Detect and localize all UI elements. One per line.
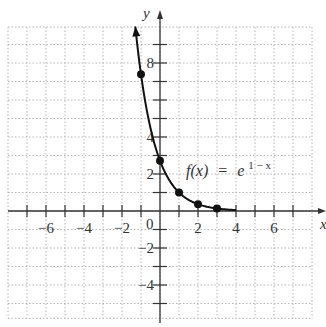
base-e: e xyxy=(237,162,244,179)
data-point xyxy=(156,157,164,165)
y-tick-label: −2 xyxy=(138,240,154,256)
y-axis-arrow-icon xyxy=(157,10,163,19)
data-point xyxy=(194,200,202,208)
axes xyxy=(8,10,326,323)
y-tick-label: −4 xyxy=(138,277,154,293)
data-point xyxy=(137,70,145,78)
exponent: 1 − x xyxy=(248,159,271,171)
origin-label: 0 xyxy=(146,216,154,232)
equals-sign: = xyxy=(218,162,227,179)
x-tick-label: −4 xyxy=(76,220,92,236)
x-axis-arrow-icon xyxy=(318,208,326,214)
y-tick-label: 2 xyxy=(147,166,155,182)
data-point xyxy=(213,204,221,212)
x-tick-label: 6 xyxy=(270,220,278,236)
x-tick-label: −6 xyxy=(38,220,54,236)
function-label: f(x) = e 1 − x xyxy=(186,159,272,180)
function-graph: −6−4−2246842−2−4 y x 0 f(x) = e 1 − x xyxy=(0,0,326,327)
function-name: f(x) xyxy=(186,162,208,180)
y-tick-label: 8 xyxy=(147,55,155,71)
x-tick-label: −2 xyxy=(114,220,130,236)
x-axis-label: x xyxy=(319,216,326,232)
data-point xyxy=(175,189,183,197)
x-tick-label: 4 xyxy=(232,220,240,236)
y-axis-label: y xyxy=(141,5,150,21)
x-tick-label: 2 xyxy=(194,220,202,236)
